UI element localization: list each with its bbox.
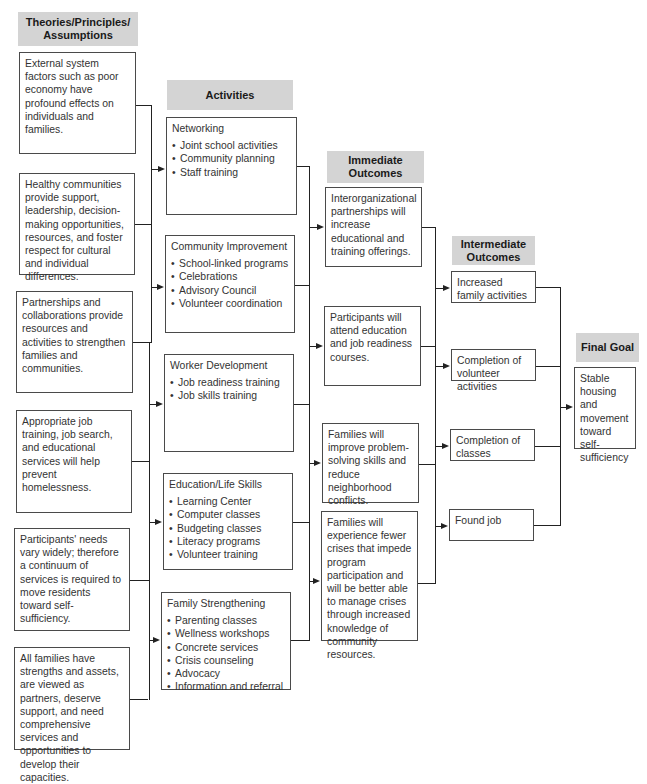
activity-community-improvement: Community Improvement School-linked prog… [165,235,295,333]
arrow-icon [316,343,323,349]
arrow-icon [157,284,164,290]
header-theories: Theories/Principles/ Assumptions [18,12,138,46]
connector [560,407,567,408]
activity-title: Community Improvement [171,240,289,253]
intermediate-outcome-1: Increased family activities [451,271,536,303]
immediate-outcome-1: Interorganizational partnerships will in… [325,187,422,267]
theory-text: All families have strengths and assets, … [20,653,119,783]
connector [435,446,443,447]
outcome-text: Found job [455,515,501,526]
activity-bullet: Volunteer coordination [171,297,289,310]
arrow-icon [443,285,450,291]
theory-box-3: Partnerships and collaborations provide … [16,291,133,393]
intermediate-outcome-2: Completion of volunteer activities [451,349,536,381]
connector-trunk [309,166,310,641]
activity-education-life-skills: Education/Life Skills Learning Center Co… [163,473,293,570]
connector [418,583,436,584]
connector [419,464,436,465]
activity-bullet: Advocacy [167,667,285,680]
activity-title: Education/Life Skills [169,478,287,491]
connector [309,346,317,347]
theory-box-1: External system factors such as poor eco… [19,52,136,154]
arrow-icon [566,404,573,410]
connector-trunk [435,227,436,584]
connector [130,699,148,700]
arrow-icon [156,401,163,407]
arrow-icon [158,166,165,172]
final-goal-text: Stable housing and movement toward self-… [580,373,629,463]
connector [149,522,156,523]
activity-family-strengthening: Family Strengthening Parenting classes W… [161,592,291,690]
activity-title: Worker Development [170,359,288,372]
intermediate-outcome-4: Found job [449,509,534,541]
activity-bullet: Budgeting classes [169,522,287,535]
final-goal-box: Stable housing and movement toward self-… [574,367,636,449]
activity-title: Networking [172,122,291,135]
connector [309,581,314,582]
activity-networking: Networking Joint school activities Commu… [166,117,297,215]
activity-bullet: Job readiness training [170,376,288,389]
header-immediate-outcomes: Immediate Outcomes [327,151,424,183]
activity-bullet: Wellness workshops [167,627,285,640]
outcome-text: Completion of classes [456,435,520,459]
arrow-icon [442,443,449,449]
theory-text: External system factors such as poor eco… [25,58,119,135]
theory-box-6: All families have strengths and assets, … [14,647,130,750]
connector [536,287,560,288]
immediate-outcome-4: Families will experience fewer crises th… [321,511,418,641]
connector [534,525,560,526]
activity-bullet: Joint school activities [172,139,291,152]
arrow-icon [313,578,320,584]
connector [132,461,150,462]
connector [295,285,309,286]
activity-bullet: Advisory Council [171,284,289,297]
theory-box-2: Healthy communities provide support, lea… [19,173,135,275]
activity-bullet: Volunteer training [169,548,287,561]
theory-text: Appropriate job training, job search, an… [22,416,113,493]
activity-bullet: Literacy programs [169,535,287,548]
theory-text: Partnerships and collaborations provide … [22,297,125,374]
outcome-text: Families will improve problem-solving sk… [328,429,409,506]
connector [151,169,159,170]
connector [136,105,152,106]
connector [309,463,315,464]
activity-bullet: Staff training [172,166,291,179]
activity-bullet: Job skills training [170,389,288,402]
arrow-icon [443,363,450,369]
activity-bullet: Information and referral [167,680,285,693]
connector [421,346,436,347]
outcome-text: Completion of volunteer activities [457,355,521,392]
header-activities: Activities [167,80,293,110]
outcome-text: Families will experience fewer crises th… [327,517,411,660]
activity-title: Family Strengthening [167,597,285,610]
activity-bullet: School-linked programs [171,257,289,270]
theory-text: Participants' needs vary widely; therefo… [20,534,121,624]
connector [435,526,442,527]
activity-bullet: Community planning [172,152,291,165]
connector [536,366,560,367]
theory-text: Healthy communities provide support, lea… [25,179,124,282]
connector [151,287,158,288]
connector [149,404,157,405]
arrow-icon [441,523,448,529]
connector [149,640,154,641]
activity-bullet: Crisis counseling [167,654,285,667]
outcome-text: Increased family activities [457,277,527,301]
theory-box-5: Participants' needs vary widely; therefo… [14,528,130,631]
connector [293,522,309,523]
arrow-icon [155,519,162,525]
connector [435,288,444,289]
connector [135,224,152,225]
connector [535,446,560,447]
connector [130,580,149,581]
activity-bullet: Learning Center [169,495,287,508]
header-final-goal: Final Goal [576,333,639,362]
connector [422,227,436,228]
theory-box-4: Appropriate job training, job search, an… [16,410,132,513]
activity-worker-development: Worker Development Job readiness trainin… [164,354,294,452]
outcome-text: Interorganizational partnerships will in… [331,193,417,257]
arrow-icon [153,637,160,643]
immediate-outcome-2: Participants will attend education and j… [324,306,421,386]
connector [291,640,309,641]
activity-bullet: Parenting classes [167,614,285,627]
